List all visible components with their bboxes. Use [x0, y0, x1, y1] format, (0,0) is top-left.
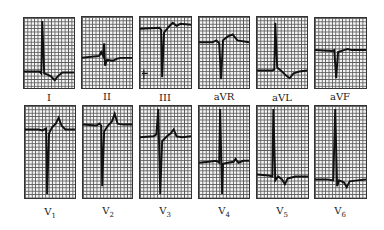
- lead-label-text: aVF: [330, 91, 350, 102]
- ecg-panel-lead-V5: [256, 105, 309, 199]
- lead-label-aVL: aVL: [256, 92, 308, 103]
- lead-label-subscript: 4: [225, 211, 229, 219]
- ecg-panel-lead-aVL: [256, 16, 308, 89]
- lead-label-V1: V1: [24, 206, 76, 220]
- lead-label-text: aVL: [272, 92, 292, 103]
- ecg-panel-lead-I: [23, 17, 75, 89]
- lead-label-II: II: [81, 91, 133, 102]
- ecg-panel-lead-III: [139, 16, 192, 89]
- ecg-trace-lead-III: [140, 17, 191, 88]
- lead-label-subscript: 2: [109, 211, 113, 219]
- ecg-trace-lead-aVL: [257, 17, 307, 88]
- lead-label-V5: V5: [256, 205, 308, 219]
- ecg-trace-lead-aVF: [315, 18, 366, 88]
- lead-label-V3: V3: [139, 205, 191, 219]
- lead-label-text: III: [159, 92, 171, 103]
- ecg-panel-lead-V4: [198, 105, 250, 199]
- lead-label-V2: V2: [82, 205, 134, 219]
- ecg-panel-lead-V2: [82, 105, 133, 199]
- ecg-trace-lead-I: [24, 18, 74, 88]
- ecg-panel-lead-V3: [139, 105, 192, 199]
- lead-label-subscript: 1: [51, 212, 55, 220]
- ecg-panel-lead-V1: [24, 105, 76, 199]
- ecg-panel-lead-aVF: [314, 17, 367, 89]
- lead-label-subscript: 3: [166, 211, 170, 219]
- ecg-trace-lead-aVR: [199, 17, 249, 88]
- lead-label-aVR: aVR: [198, 91, 250, 102]
- ecg-trace-lead-II: [82, 17, 132, 88]
- ecg-trace-lead-V3: [140, 106, 191, 198]
- lead-label-III: III: [139, 92, 191, 103]
- ecg-trace-lead-V2: [83, 106, 132, 198]
- ecg-panel-lead-V6: [314, 105, 367, 199]
- lead-label-I: I: [23, 92, 75, 103]
- ecg-panel-lead-II: [81, 16, 133, 89]
- lead-label-V6: V6: [314, 205, 366, 219]
- lead-label-subscript: 5: [283, 211, 287, 219]
- lead-label-V4: V4: [198, 205, 250, 219]
- ecg-trace-lead-V5: [257, 106, 308, 198]
- lead-label-text: aVR: [214, 91, 235, 102]
- ecg-panel-lead-aVR: [198, 16, 250, 89]
- ecg-trace-lead-V4: [199, 106, 249, 198]
- lead-label-aVF: aVF: [314, 91, 366, 102]
- lead-label-text: I: [47, 92, 51, 103]
- lead-label-text: II: [103, 91, 111, 102]
- lead-label-subscript: 6: [341, 211, 345, 219]
- ecg-trace-lead-V6: [315, 106, 366, 198]
- ecg-trace-lead-V1: [25, 106, 75, 198]
